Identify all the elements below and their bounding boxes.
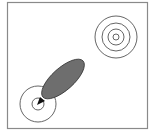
diagram-canvas	[0, 0, 154, 137]
